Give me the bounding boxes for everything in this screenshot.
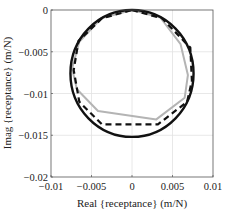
x-tick-label: 0.005 <box>161 181 185 192</box>
x-tick-label: 0.01 <box>204 181 222 192</box>
x-axis-label: Real {receptance} (m/N) <box>77 197 187 210</box>
x-tick-label: −0.005 <box>77 181 107 192</box>
nyquist-chart: −0.01−0.00500.0050.01 0−0.005−0.01−0.015… <box>0 0 225 213</box>
x-tick-label: 0 <box>129 181 134 192</box>
y-axis-ticks: 0−0.005−0.01−0.015−0.02 <box>18 5 53 183</box>
y-tick-label: 0 <box>43 5 48 16</box>
y-tick-label: −0.015 <box>18 130 48 141</box>
y-tick-label: −0.01 <box>24 89 48 100</box>
y-tick-label: −0.02 <box>24 172 48 183</box>
x-axis-ticks: −0.01−0.00500.0050.01 <box>39 175 222 192</box>
y-tick-label: −0.005 <box>18 47 48 58</box>
y-axis-label: Imag {receptance} (m/N) <box>1 36 14 149</box>
